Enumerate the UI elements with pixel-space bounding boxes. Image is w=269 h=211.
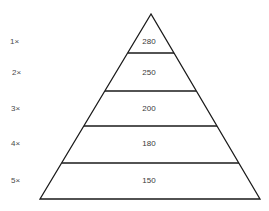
- tier-label-4: 4×: [11, 139, 20, 149]
- tier-value-3: 200: [129, 104, 169, 114]
- tier-value-2: 250: [129, 68, 169, 78]
- tier-label-1: 1×: [10, 37, 19, 47]
- tier-label-3: 3×: [11, 104, 20, 114]
- tier-value-4: 180: [129, 139, 169, 149]
- tier-value-5: 150: [129, 176, 169, 186]
- tier-label-2: 2×: [12, 68, 21, 78]
- tier-label-5: 5×: [11, 176, 20, 186]
- tier-value-1: 280: [129, 37, 169, 47]
- pyramid-diagram: 1× 2× 3× 4× 5× 280 250 200 180 150: [0, 0, 269, 211]
